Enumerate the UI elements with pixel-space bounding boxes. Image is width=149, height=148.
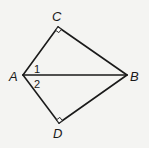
segment-DB <box>59 75 127 123</box>
vertex-label-C: C <box>52 9 62 24</box>
vertex-label-A: A <box>8 69 18 84</box>
angle-label-2: 2 <box>34 78 40 90</box>
vertex-label-B: B <box>130 69 139 84</box>
vertex-label-D: D <box>53 126 62 141</box>
geometry-diagram: A B C D 1 2 <box>0 0 149 148</box>
angle-label-1: 1 <box>34 63 40 75</box>
diagram-svg: A B C D 1 2 <box>0 0 149 148</box>
segment-AC <box>23 27 58 75</box>
segment-AD <box>23 75 59 123</box>
segment-CB <box>58 27 127 75</box>
